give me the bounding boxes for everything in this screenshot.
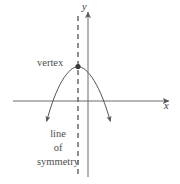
line-of-symmetry-label-line3: symmetry (22, 157, 94, 168)
parabola-right-arm (78, 67, 110, 122)
parabola-figure: vertex y x line of symmetry (0, 0, 180, 184)
line-of-symmetry-label-line2: of (29, 143, 87, 154)
x-axis-label: x (164, 101, 169, 112)
vertex-label: vertex (37, 58, 63, 69)
parabola-left-arm (47, 67, 78, 122)
line-of-symmetry-label-line1: line (29, 129, 87, 140)
y-axis-label: y (82, 2, 87, 13)
vertex-point (75, 64, 80, 69)
